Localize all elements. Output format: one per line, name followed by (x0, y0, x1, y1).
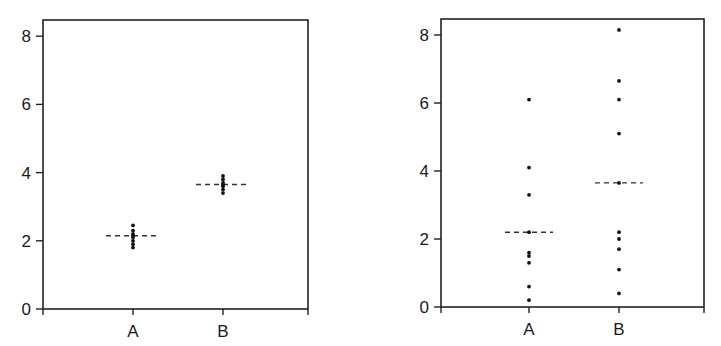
plot-frame (43, 20, 308, 309)
chart-panel-left: 02468AB (22, 20, 308, 341)
y-tick-label: 2 (420, 230, 429, 249)
data-point (221, 188, 225, 192)
data-point (617, 28, 621, 32)
data-point (527, 98, 531, 102)
y-tick-label: 8 (420, 26, 429, 45)
data-point (131, 239, 135, 243)
y-tick-label: 6 (420, 94, 429, 113)
x-axis: AB (441, 307, 704, 339)
y-tick-label: 6 (22, 95, 31, 114)
data-point (131, 229, 135, 233)
data-point (617, 79, 621, 83)
data-point (617, 292, 621, 296)
data-point (527, 166, 531, 170)
series-b (595, 28, 643, 295)
data-point (617, 268, 621, 272)
data-point (617, 132, 621, 136)
data-point (221, 184, 225, 188)
y-axis: 02468 (22, 27, 43, 319)
data-point (131, 224, 135, 228)
data-point (527, 251, 531, 255)
y-tick-label: 0 (420, 298, 429, 317)
y-tick-label: 2 (22, 232, 31, 251)
data-point (527, 230, 531, 234)
data-point (617, 247, 621, 251)
y-axis: 02468 (420, 26, 441, 317)
dot-plot-comparison: 02468AB02468AB (0, 0, 721, 346)
x-category-label-a: A (523, 320, 535, 339)
data-point (527, 261, 531, 265)
x-axis: AB (43, 309, 308, 341)
plot-frame (441, 19, 704, 307)
y-tick-label: 4 (22, 164, 31, 183)
data-point (131, 246, 135, 250)
series-a (106, 224, 160, 250)
data-point (617, 237, 621, 241)
data-point (221, 191, 225, 195)
chart-panel-right: 02468AB (420, 19, 704, 339)
y-tick-label: 0 (22, 300, 31, 319)
data-point (131, 235, 135, 239)
series-b (196, 174, 250, 195)
x-category-label-a: A (127, 322, 139, 341)
data-point (617, 98, 621, 102)
data-point (221, 178, 225, 182)
x-category-label-b: B (217, 322, 228, 341)
y-tick-label: 8 (22, 27, 31, 46)
data-point (527, 254, 531, 258)
data-point (617, 230, 621, 234)
data-point (617, 181, 621, 185)
y-tick-label: 4 (420, 162, 429, 181)
series-a (505, 98, 553, 302)
data-point (131, 242, 135, 246)
x-category-label-b: B (613, 320, 624, 339)
figure: 02468AB02468AB (0, 0, 721, 346)
data-point (527, 285, 531, 289)
data-point (527, 193, 531, 197)
data-point (221, 174, 225, 178)
data-point (527, 298, 531, 302)
